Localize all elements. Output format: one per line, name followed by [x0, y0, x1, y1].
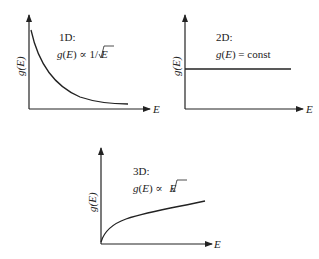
curve-3d-sqrt	[101, 201, 205, 242]
x-axis-label-2d: E	[305, 103, 313, 115]
y-axis-label-3d: g(E)	[86, 192, 99, 212]
x-axis-label-1d: E	[152, 103, 160, 115]
panel-3d-formula: g(E) ∝ E	[133, 182, 177, 195]
panel-1d-formula: g(E) ∝ 1/E	[57, 48, 108, 61]
panel-2d: 2D: g(E) = const g(E) E	[170, 15, 313, 115]
x-axis-label-3d: E	[213, 238, 221, 250]
panel-3d: 3D: g(E) ∝ E g(E) E	[86, 148, 221, 250]
density-of-states-diagram: 1D: g(E) ∝ 1/E g(E) E 2D: g(E) = const g…	[0, 0, 319, 259]
y-axis-label-2d: g(E)	[170, 56, 183, 76]
panel-2d-formula: g(E) = const	[216, 48, 271, 61]
curve-1d-inverse-sqrt	[31, 30, 128, 104]
panel-3d-title: 3D:	[133, 165, 150, 177]
panel-1d-title: 1D:	[59, 31, 76, 43]
panel-1d: 1D: g(E) ∝ 1/E g(E) E	[14, 15, 160, 115]
panel-2d-title: 2D:	[216, 31, 233, 43]
y-axis-label-1d: g(E)	[14, 56, 27, 76]
